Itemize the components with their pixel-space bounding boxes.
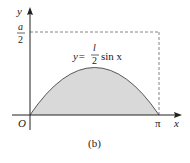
curve-label-numerator: l <box>93 42 96 53</box>
figure-caption: (b) <box>88 137 101 150</box>
diagram: y a 2 y= l 2 sin x O π x (b) <box>0 0 190 163</box>
origin-label: O <box>18 117 26 129</box>
y-tick-numerator: a <box>18 21 23 32</box>
curve-label-prefix: y= <box>72 50 85 62</box>
curve-label-suffix: sin x <box>101 50 123 62</box>
y-tick-denominator: 2 <box>18 34 23 45</box>
y-axis-label: y <box>16 5 22 17</box>
x-axis-label: x <box>173 117 179 129</box>
y-axis-arrow-icon <box>27 7 33 15</box>
x-tick-pi-label: π <box>155 117 161 129</box>
curve-label-denominator: 2 <box>92 55 97 66</box>
